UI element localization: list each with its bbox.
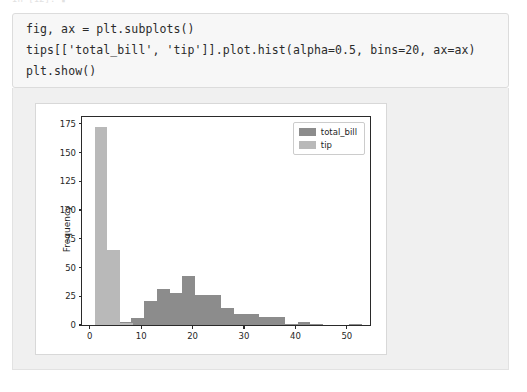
histogram-bar <box>246 314 259 325</box>
histogram-bar <box>272 317 285 325</box>
y-axis-tick-mark <box>79 324 83 325</box>
code-line-3: plt.show() <box>13 61 508 82</box>
y-axis-tick-mark <box>79 296 83 297</box>
legend-item-total-bill: total_bill <box>299 127 357 137</box>
code-line-1: fig, ax = plt.subplots() <box>13 14 508 40</box>
histogram-bar <box>182 276 195 325</box>
top-clipped-text: In [12]: ▮ <box>0 0 527 9</box>
histogram-bar <box>95 127 108 325</box>
histogram-bar <box>120 323 133 325</box>
histogram-bar <box>157 289 170 325</box>
histogram-bar <box>195 295 208 325</box>
x-axis-tick-label: 0 <box>87 331 92 341</box>
histogram-bar <box>310 324 323 325</box>
x-axis-tick-label: 30 <box>239 331 250 341</box>
x-axis-tick-label: 10 <box>136 331 147 341</box>
histogram-bar <box>208 295 221 325</box>
x-axis-tick-mark <box>89 325 90 329</box>
legend-swatch-total-bill <box>299 128 316 136</box>
histogram-bar <box>170 293 183 325</box>
histogram-bar <box>234 314 247 325</box>
y-axis-tick-mark <box>79 209 83 210</box>
x-axis-tick-mark <box>192 325 193 329</box>
histogram-bar <box>107 250 120 325</box>
legend-swatch-tip <box>299 141 316 149</box>
x-axis-tick-mark <box>346 325 347 329</box>
legend-label-tip: tip <box>321 140 332 150</box>
code-cell[interactable]: fig, ax = plt.subplots() tips[['total_bi… <box>12 13 509 88</box>
histogram-bar <box>131 318 144 325</box>
x-axis-tick-mark <box>243 325 244 329</box>
histogram-bar <box>144 301 157 325</box>
plot-axes: total_bill tip 0255075100125150175010203… <box>81 116 371 326</box>
chart-legend: total_bill tip <box>293 122 365 155</box>
cell-output-area: Frequency total_bill tip 025507510012515… <box>12 88 509 370</box>
x-axis-tick-label: 50 <box>341 331 352 341</box>
legend-item-tip: tip <box>299 140 357 150</box>
legend-label-total-bill: total_bill <box>321 127 357 137</box>
clipped-prompt-label: In [12]: ▮ <box>12 0 66 4</box>
x-axis-tick-mark <box>141 325 142 329</box>
histogram-bar <box>349 324 362 325</box>
x-axis-tick-label: 40 <box>290 331 301 341</box>
y-axis-tick-mark <box>79 152 83 153</box>
x-axis-tick-label: 20 <box>187 331 198 341</box>
histogram-bar <box>298 322 311 325</box>
y-axis-tick-mark <box>79 123 83 124</box>
y-axis-tick-mark <box>79 181 83 182</box>
code-line-2: tips[['total_bill', 'tip']].plot.hist(al… <box>13 40 508 61</box>
histogram-bar <box>221 308 234 325</box>
histogram-bar <box>259 317 272 325</box>
x-axis-tick-mark <box>295 325 296 329</box>
matplotlib-figure: Frequency total_bill tip 025507510012515… <box>35 103 387 355</box>
y-axis-tick-mark <box>79 238 83 239</box>
y-axis-tick-mark <box>79 267 83 268</box>
